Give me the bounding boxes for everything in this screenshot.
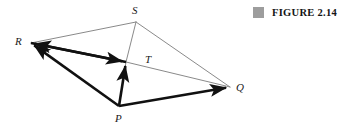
vertex-label-t: T — [145, 54, 151, 65]
segment-R-S — [31, 22, 136, 43]
vector-P-R — [34, 45, 119, 106]
figure-caption: FIGURE 2.14 — [253, 7, 337, 18]
vertex-label-s: S — [132, 5, 138, 16]
vector-P-Q — [119, 88, 226, 106]
figure-caption-text: FIGURE 2.14 — [272, 7, 337, 18]
diagram-canvas — [0, 0, 355, 130]
figure-page: RSTPQ FIGURE 2.14 — [0, 0, 355, 130]
vector-P-T — [119, 66, 125, 106]
segment-S-T — [126, 22, 136, 62]
gray-square-icon — [253, 7, 264, 18]
vertex-label-q: Q — [236, 82, 244, 93]
segment-T-Q — [126, 62, 230, 87]
vertex-label-p: P — [115, 113, 122, 124]
vertex-label-r: R — [15, 36, 22, 47]
vector-T-R — [35, 44, 126, 62]
